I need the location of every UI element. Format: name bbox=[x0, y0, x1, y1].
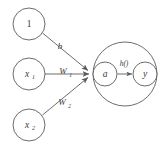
edge-label-bias: b bbox=[58, 41, 63, 51]
node-input-1-label: x bbox=[24, 69, 30, 79]
neuron-diagram-canvas: 1 x 1 x 2 a y b W 1 W 2 h() bbox=[0, 0, 164, 152]
edge-label-weight-2-subscript: 2 bbox=[68, 103, 71, 109]
node-output-label: y bbox=[142, 69, 148, 79]
activation-function-label: h() bbox=[120, 59, 129, 68]
edge-bias-to-sum bbox=[43, 33, 89, 71]
node-sum-label: a bbox=[103, 69, 108, 79]
edge-label-weight-1: W bbox=[59, 66, 68, 76]
node-input-2-subscript: 2 bbox=[32, 125, 35, 131]
node-input-2-label: x bbox=[24, 120, 30, 130]
edge-label-weight-1-subscript: 1 bbox=[69, 72, 72, 78]
node-bias-label: 1 bbox=[27, 19, 32, 29]
edge-label-weight-2: W bbox=[58, 97, 67, 107]
neuron-diagram: 1 x 1 x 2 a y b W 1 W 2 h() bbox=[0, 0, 164, 152]
node-input-1-subscript: 1 bbox=[32, 74, 35, 80]
